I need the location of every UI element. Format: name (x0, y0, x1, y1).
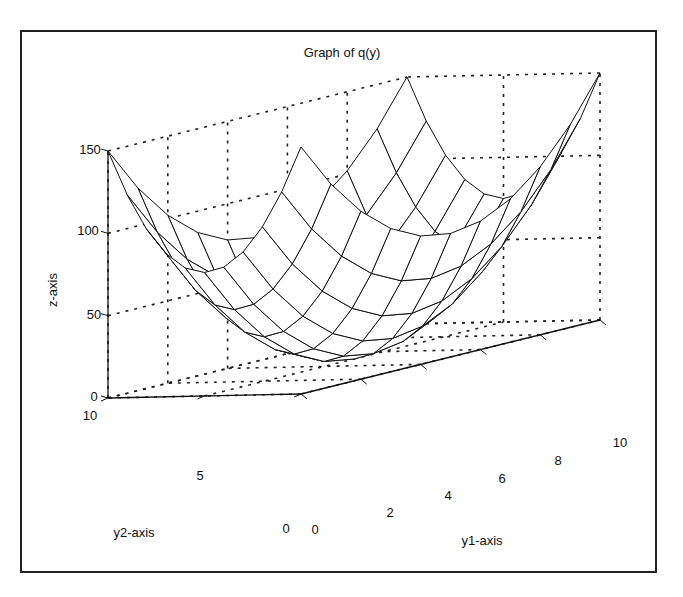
x-axis-label: y1-axis (461, 534, 502, 547)
z-tick-label-50: 50 (87, 308, 101, 321)
x-tick-label-8: 8 (554, 454, 561, 467)
x-tick-label-6: 6 (498, 472, 505, 485)
z-tick-label-0: 0 (90, 390, 97, 403)
x-tick-label-0: 0 (311, 523, 318, 536)
y-axis-label: y2-axis (113, 526, 154, 539)
z-tick-label-150: 150 (79, 143, 101, 156)
figure-frame: Graph of q(y) z-axis y2-axis y1-axis 150… (20, 30, 657, 573)
plot-area (22, 32, 655, 571)
x-tick-label-4: 4 (444, 489, 451, 502)
chart-title: Graph of q(y) (304, 46, 381, 59)
z-tick-label-100: 100 (77, 224, 99, 237)
x-tick-label-10: 10 (613, 436, 627, 449)
z-axis-label: z-axis (46, 273, 59, 307)
y-tick-label-5: 5 (196, 469, 203, 482)
mesh-surface (108, 73, 600, 361)
y-tick-label-0: 0 (282, 522, 289, 535)
x-tick-label-2: 2 (386, 506, 393, 519)
y-tick-label-10: 10 (83, 409, 97, 422)
